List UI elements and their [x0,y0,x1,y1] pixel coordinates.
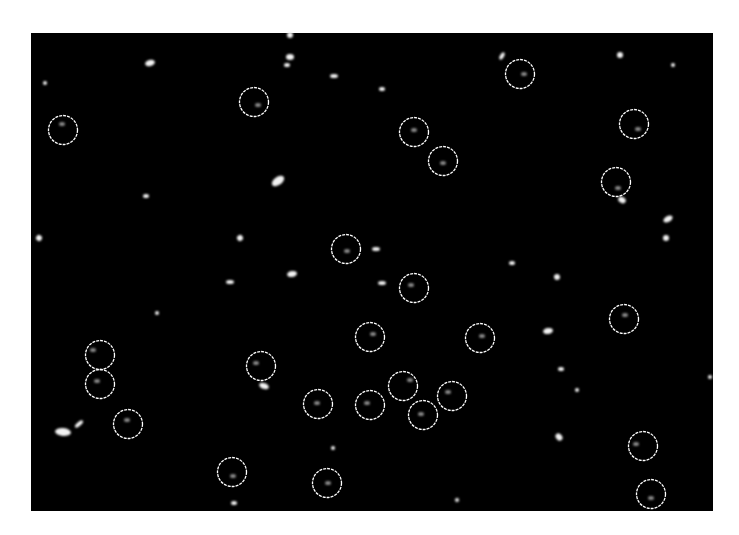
bright-spot [671,63,675,67]
faint-particle [314,401,320,405]
bright-spot [509,261,515,265]
faint-particle [440,161,446,165]
bright-spot [617,52,623,58]
faint-particle [479,334,485,338]
faint-particle [418,412,424,416]
bright-spot [286,54,294,60]
faint-particle [325,481,331,485]
microscopy-field [31,33,713,511]
bright-spot [143,194,149,198]
faint-particle [124,418,130,422]
bright-spot [379,87,385,91]
faint-particle [521,72,527,76]
faint-particle [94,379,100,383]
bright-spot [708,375,712,379]
faint-particle [622,313,628,317]
faint-particle [407,378,413,382]
bright-spot [663,235,669,241]
faint-particle [633,442,639,446]
bright-spot [284,63,290,67]
bright-spot [287,32,293,38]
faint-particle [253,361,259,365]
bright-spot [330,74,338,78]
faint-particle [90,348,96,352]
faint-particle [648,496,654,500]
faint-particle [344,249,350,253]
bright-spot [155,311,159,315]
bright-spot [558,367,564,371]
faint-particle [408,283,414,287]
faint-particle [615,186,621,190]
faint-particle [230,474,236,478]
faint-particle [59,122,65,126]
faint-particle [255,103,261,107]
bright-spot [43,81,47,85]
bright-spot [331,446,335,450]
bright-spot [372,247,380,251]
faint-particle [445,390,451,394]
bright-spot [226,280,234,284]
faint-particle [364,401,370,405]
bright-spot [378,281,386,285]
bright-spot [575,388,579,392]
bright-spot [231,501,237,505]
faint-particle [635,127,641,131]
microscopy-figure [0,0,739,535]
faint-particle [411,128,417,132]
faint-particle [370,332,376,336]
